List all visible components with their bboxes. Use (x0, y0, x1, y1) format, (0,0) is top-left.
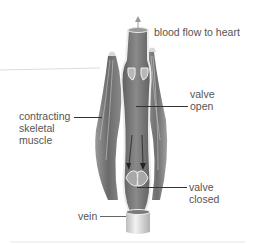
label-valve-open-1: valve (190, 88, 215, 100)
label-blood-flow: blood flow to heart (154, 26, 240, 38)
label-contracting-2: skeletal (19, 122, 55, 134)
background-rule-top (0, 68, 100, 70)
leader-vein (100, 216, 126, 217)
left-skeletal-muscle (95, 52, 121, 201)
label-vein: vein (78, 210, 97, 222)
vein (122, 28, 151, 235)
label-valve-closed-2: closed (189, 193, 219, 205)
label-contracting-1: contracting (19, 110, 70, 122)
leader-valve-open (136, 106, 188, 107)
label-valve-closed-1: valve (189, 181, 214, 193)
blood-flow-arrow-icon (135, 16, 141, 28)
leader-contracting-muscle (74, 117, 102, 118)
label-valve-open-2: open (190, 100, 213, 112)
leader-valve-closed (137, 187, 187, 188)
label-contracting-3: muscle (19, 134, 52, 146)
vein-cut-end (126, 212, 150, 234)
